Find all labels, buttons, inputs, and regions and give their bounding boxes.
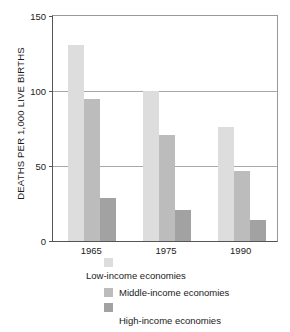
legend-swatch-icon <box>104 258 113 267</box>
chart-figure: DEATHS PER 1,000 LIVE BIRTHS 050100150 1… <box>0 0 290 332</box>
legend-item-label: High-income economies <box>119 315 221 326</box>
bar <box>143 91 159 241</box>
x-tick-label: 1990 <box>230 245 251 256</box>
bar <box>159 135 175 242</box>
legend-swatch-icon <box>104 288 113 297</box>
y-tick-label: 50 <box>35 161 46 172</box>
bar <box>218 127 234 241</box>
y-tick-mark <box>49 241 53 242</box>
y-tick-label: 100 <box>30 86 46 97</box>
plot-area: 050100150 <box>52 15 278 242</box>
bar <box>84 99 100 242</box>
bar <box>234 171 250 242</box>
legend-item-label: Middle-income economies <box>119 287 229 298</box>
x-tick-label: 1965 <box>81 245 102 256</box>
x-tick-label: 1975 <box>155 245 176 256</box>
y-tick-label: 0 <box>41 236 46 247</box>
y-tick-label: 150 <box>30 11 46 22</box>
y-axis-title: DEATHS PER 1,000 LIVE BIRTHS <box>15 24 26 224</box>
bar-series-group <box>53 16 277 241</box>
legend-swatch-icon <box>104 303 113 312</box>
bar <box>100 198 116 242</box>
legend-item-label: Low-income economies <box>86 270 186 281</box>
bar <box>68 45 84 242</box>
bar <box>250 220 266 241</box>
bar <box>175 210 191 242</box>
